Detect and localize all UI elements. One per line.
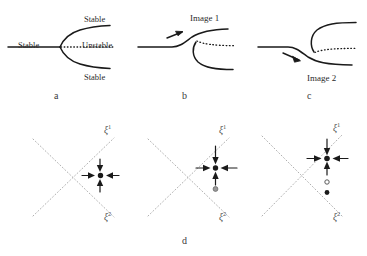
portrait-middle-axis2-superscript: 2: [223, 210, 226, 217]
portrait-left-axis1-superscript: 1: [108, 123, 111, 130]
portrait-right-axis2-label: ξ2: [333, 213, 340, 223]
portrait-middle: [148, 138, 237, 217]
portrait-right-equilibrium-filled-node: [324, 156, 330, 162]
portrait-right-equilibrium-open-circle: [325, 180, 329, 184]
portrait-left-axis2-label: ξ2: [104, 213, 111, 223]
portrait-left-axis2-superscript: 2: [108, 210, 111, 217]
panel-letter-d: d: [182, 236, 187, 246]
portrait-right-equilibrium-filled-dot: [325, 190, 330, 195]
portrait-left: [33, 138, 119, 217]
portrait-right-axis-xi1: [262, 134, 343, 216]
portrait-right-axis1-superscript: 1: [337, 121, 340, 128]
portrait-left-equilibrium-filled-node: [98, 173, 103, 178]
portrait-middle-equilibrium-filled-node: [213, 165, 218, 170]
portrait-middle-axis1-superscript: 1: [223, 123, 226, 130]
portrait-middle-axis2-label: ξ2: [219, 213, 226, 223]
portrait-right-axis1-label: ξ1: [333, 124, 340, 134]
portrait-right-axis2-superscript: 2: [337, 210, 340, 217]
figure-root: Stable Stable Unstable Stable Image 1 Im…: [0, 0, 367, 256]
portrait-middle-equilibrium-gray-circle: [213, 187, 218, 192]
portrait-right: [262, 134, 348, 217]
bottom-row-phase-portraits: [0, 0, 367, 256]
portrait-left-axis-xi2: [33, 139, 114, 217]
portrait-left-axis1-label: ξ1: [104, 126, 111, 136]
portrait-right-axis-xi2: [262, 136, 343, 217]
portrait-middle-axis1-label: ξ1: [219, 126, 226, 136]
